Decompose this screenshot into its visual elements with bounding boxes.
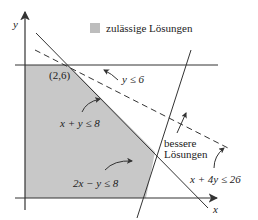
lp-diagram: zulässige Lösungen x y (2,6) y ≤ 6 x + y… — [0, 0, 258, 220]
y-axis-label: y — [12, 18, 18, 30]
pointer-arrow-x-plus-4y — [214, 148, 224, 168]
legend-label: zulässige Lösungen — [106, 22, 193, 34]
constraint-label-2x-minus-y: 2x − y ≤ 8 — [73, 177, 119, 189]
point-label: (2,6) — [49, 69, 70, 82]
pointer-arrow-y-le-6 — [104, 70, 118, 80]
x-axis-label: x — [212, 203, 218, 215]
constraint-label-x-plus-4y: x + 4y ≤ 26 — [189, 173, 241, 185]
direction-label-line2: Lösungen — [164, 148, 208, 160]
constraint-label-x-plus-y: x + y ≤ 8 — [59, 117, 100, 129]
constraint-label-y-le-6: y ≤ 6 — [121, 73, 144, 85]
constraint-line-2x-minus-y — [137, 50, 191, 218]
legend-swatch — [90, 23, 100, 33]
